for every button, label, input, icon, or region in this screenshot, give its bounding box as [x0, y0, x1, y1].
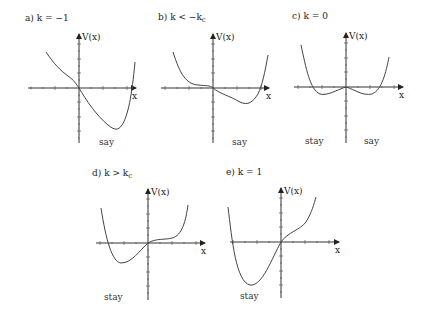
stay-annotation: stay	[305, 136, 325, 146]
panel-b: b) k < −kc V(x) x say	[158, 12, 271, 147]
potential-curve	[173, 52, 268, 104]
panel-title: b) k < −kc	[158, 12, 206, 24]
y-axis-label: V(x)	[150, 187, 170, 197]
y-axis-label: V(x)	[81, 32, 101, 42]
panel-title: c) k = 0	[292, 11, 328, 21]
potential-curve	[101, 205, 188, 263]
panel-c: c) k = 0 V(x) x stay say	[292, 11, 404, 146]
panel-d: d) k > kc V(x) x stay	[92, 168, 206, 302]
stay-annotation: stay	[104, 292, 124, 302]
x-axis-label: x	[266, 91, 271, 101]
say-annotation: say	[364, 136, 380, 146]
say-annotation: say	[99, 137, 115, 147]
y-axis-label: V(x)	[215, 32, 235, 42]
panel-e: e) k = 1 V(x) x stay	[226, 167, 340, 301]
panel-title: a) k = −1	[25, 13, 69, 23]
stay-annotation: stay	[240, 291, 260, 301]
x-axis-label: x	[201, 246, 206, 256]
y-axis-label: V(x)	[283, 186, 303, 196]
panel-a: a) k = −1 V(x) x say	[25, 13, 137, 147]
x-axis-label: x	[335, 245, 340, 255]
x-axis-label: x	[132, 91, 137, 101]
say-annotation: say	[232, 137, 248, 147]
x-axis-label: x	[399, 90, 404, 100]
panel-title: e) k = 1	[226, 167, 262, 177]
potential-diagrams: a) k = −1 V(x) x say b) k < −kc	[0, 0, 424, 320]
potential-curve	[228, 197, 316, 285]
potential-curve	[46, 52, 135, 129]
panel-title: d) k > kc	[92, 168, 132, 180]
y-axis-label: V(x)	[348, 31, 368, 41]
